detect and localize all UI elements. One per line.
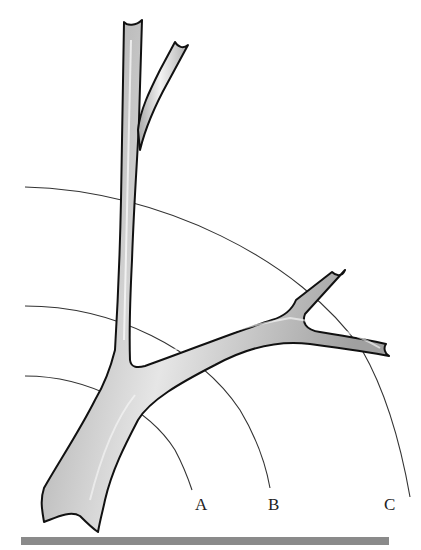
baseline-bar	[21, 537, 389, 545]
vessel-trunk	[42, 20, 389, 532]
vessel	[42, 20, 389, 532]
vessel-diagram	[0, 0, 421, 550]
vessel-upper-branch	[138, 42, 188, 150]
label-c: C	[384, 496, 395, 513]
label-b: B	[268, 496, 279, 513]
label-a: A	[195, 496, 207, 513]
